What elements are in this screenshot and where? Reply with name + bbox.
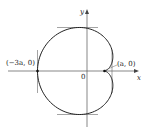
x-axis-label: x: [137, 74, 141, 82]
cusp-leader-line: [106, 65, 118, 70]
point-cusp-label: (a, 0): [117, 60, 136, 68]
cardioid-diagram: y x 0 (−3a, 0) (a, 0): [0, 0, 145, 133]
x-axis-arrow-icon: [134, 69, 139, 73]
y-axis-arrow-icon: [85, 9, 89, 14]
origin-label: 0: [81, 73, 85, 81]
point-left: [36, 70, 39, 73]
y-axis-label: y: [79, 8, 85, 16]
point-cusp: [103, 70, 106, 73]
point-left-label: (−3a, 0): [6, 59, 35, 67]
